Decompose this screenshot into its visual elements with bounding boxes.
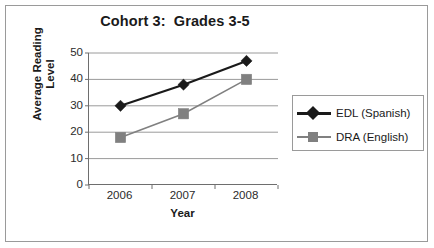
y-axis-tick-label: 20 <box>57 126 83 137</box>
data-point-marker <box>178 109 188 119</box>
legend-label: DRA (English) <box>331 131 408 143</box>
chart-figure: Cohort 3: Grades 3-5 Average Reading Lev… <box>0 0 434 248</box>
x-axis-tick-label: 2008 <box>223 189 269 201</box>
y-axis-tick-label: 40 <box>57 73 83 84</box>
data-point-marker <box>241 74 251 84</box>
chart-title: Cohort 3: Grades 3-5 <box>60 13 290 29</box>
legend-marker-square-icon <box>297 130 331 144</box>
y-axis-title-line-1: Average Reading <box>31 27 44 121</box>
data-point-marker <box>115 100 126 111</box>
y-axis-tick-label: 30 <box>57 100 83 111</box>
x-axis-tick-label: 2007 <box>160 189 206 201</box>
data-point-marker <box>241 55 252 66</box>
legend-marker-diamond-icon <box>297 106 331 120</box>
y-axis-tick-labels: 01020304050 <box>55 53 83 185</box>
data-point-marker <box>178 79 189 90</box>
series-layer <box>115 55 252 142</box>
chart-legend: EDL (Spanish)DRA (English) <box>292 95 424 151</box>
legend-label: EDL (Spanish) <box>331 107 410 119</box>
plot-svg <box>89 53 278 185</box>
x-axis-tick-labels: 200620072008 <box>88 189 277 205</box>
y-axis-tick-label: 10 <box>57 153 83 164</box>
y-axis-tick-label: 50 <box>57 47 83 58</box>
plot-area <box>88 53 277 185</box>
y-axis-tick-label: 0 <box>57 179 83 190</box>
legend-item[interactable]: DRA (English) <box>297 128 421 146</box>
legend-item[interactable]: EDL (Spanish) <box>297 104 421 122</box>
x-axis-title: Year <box>88 207 277 219</box>
data-point-marker <box>115 132 125 142</box>
x-axis-tick-label: 2006 <box>97 189 143 201</box>
